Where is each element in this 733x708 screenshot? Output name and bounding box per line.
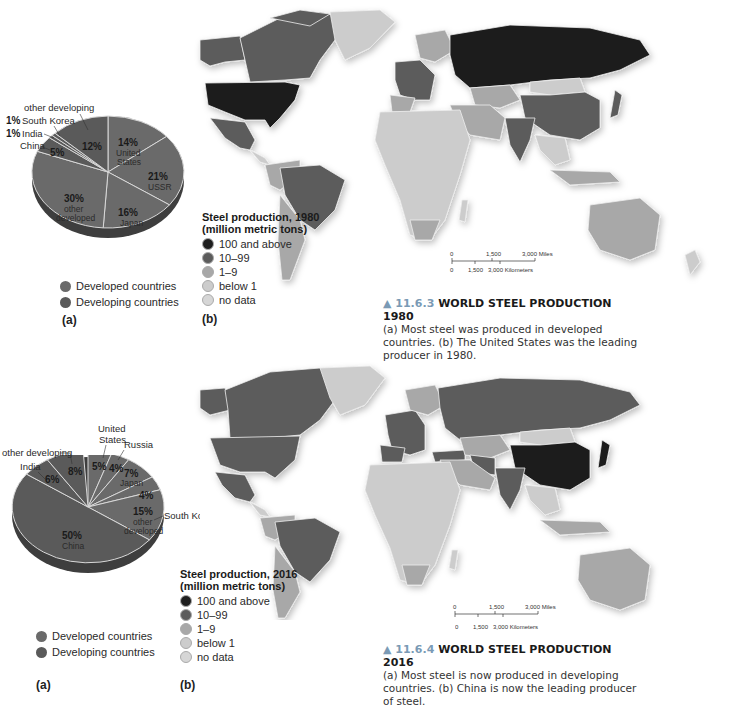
svg-text:other developing: other developing <box>2 447 72 458</box>
caption-2016: ▲ 11.6.4 WORLD STEEL PRODUCTION 2016 (a)… <box>383 643 643 708</box>
pie-chart-1980: 14% United States 21% USSR 16% Japan 30%… <box>0 100 200 240</box>
svg-text:3,000 Miles: 3,000 Miles <box>522 251 553 257</box>
swatch-100-above <box>180 595 192 607</box>
swatch-below-1 <box>180 637 192 649</box>
legend-developing-label: Developing countries <box>76 296 179 308</box>
svg-text:1%: 1% <box>6 128 21 139</box>
svg-text:0: 0 <box>455 624 459 630</box>
pie-2016-external-labels: United States Russia other developing In… <box>0 420 200 530</box>
svg-text:States: States <box>117 157 141 167</box>
svg-text:1,500: 1,500 <box>468 267 484 273</box>
swatch-no-data <box>180 651 192 663</box>
svg-text:3,000 Kilometers: 3,000 Kilometers <box>488 267 533 273</box>
panel-a-label-1980: (a) <box>62 313 77 327</box>
legend-developed-label: Developed countries <box>52 630 152 642</box>
svg-text:Japan: Japan <box>120 218 143 228</box>
map-legend-title-1980: Steel production, 1980 <box>202 211 319 223</box>
svg-text:1,500: 1,500 <box>489 604 505 610</box>
svg-text:States: States <box>99 434 126 445</box>
svg-text:USSR: USSR <box>148 182 172 192</box>
svg-text:3,000 Kilometers: 3,000 Kilometers <box>493 624 538 630</box>
developing-swatch <box>36 647 47 658</box>
svg-text:50%: 50% <box>62 530 82 541</box>
map-legend-2016: Steel production, 2016 (million metric t… <box>180 568 297 664</box>
panel-b-label-2016: (b) <box>180 678 195 692</box>
svg-text:South Korea: South Korea <box>22 115 76 126</box>
developed-swatch <box>36 631 47 642</box>
swatch-no-data <box>202 294 214 306</box>
svg-text:other developing: other developing <box>24 102 94 113</box>
map-legend-subtitle-1980: (million metric tons) <box>202 223 319 235</box>
swatch-1-9 <box>180 623 192 635</box>
svg-text:16%: 16% <box>118 207 138 218</box>
svg-text:0: 0 <box>450 267 454 273</box>
panel-a-label-2016: (a) <box>36 678 51 692</box>
pie-legend-2016: Developed countries Developing countries <box>36 628 155 660</box>
svg-text:China: China <box>20 140 46 151</box>
triangle-icon: ▲ <box>383 297 391 310</box>
svg-text:1%: 1% <box>6 115 21 126</box>
svg-text:14%: 14% <box>118 137 138 148</box>
svg-text:1,500: 1,500 <box>486 251 502 257</box>
svg-text:developed: developed <box>56 213 96 223</box>
svg-text:0: 0 <box>450 251 454 257</box>
svg-text:India: India <box>22 128 43 139</box>
figure-number: 11.6.3 <box>395 297 434 310</box>
swatch-10-99 <box>202 252 214 264</box>
svg-text:India: India <box>20 461 41 472</box>
caption-text: (a) Most steel was produced in developed… <box>383 323 643 362</box>
svg-text:United: United <box>98 423 125 434</box>
map-legend-subtitle-2016: (million metric tons) <box>180 580 297 592</box>
svg-text:South Korea: South Korea <box>164 510 200 521</box>
svg-text:5%: 5% <box>50 147 65 158</box>
legend-developing-label: Developing countries <box>52 646 155 658</box>
svg-text:China: China <box>62 541 84 551</box>
svg-text:12%: 12% <box>82 141 102 152</box>
svg-text:30%: 30% <box>64 193 84 204</box>
legend-developed-label: Developed countries <box>76 280 176 292</box>
triangle-icon: ▲ <box>383 643 391 656</box>
caption-text: (a) Most steel is now produced in develo… <box>383 669 643 708</box>
svg-text:3,000 Miles: 3,000 Miles <box>525 604 556 610</box>
pie-legend-1980: Developed countries Developing countries <box>60 278 179 310</box>
svg-text:21%: 21% <box>148 171 168 182</box>
swatch-1-9 <box>202 266 214 278</box>
panel-b-label-1980: (b) <box>202 312 217 326</box>
svg-text:Russia: Russia <box>124 439 154 450</box>
map-legend-title-2016: Steel production, 2016 <box>180 568 297 580</box>
map-legend-1980: Steel production, 1980 (million metric t… <box>202 211 319 307</box>
caption-1980: ▲ 11.6.3 WORLD STEEL PRODUCTION 1980 (a)… <box>383 297 643 362</box>
developing-swatch <box>60 297 71 308</box>
swatch-10-99 <box>180 609 192 621</box>
figure-number: 11.6.4 <box>395 643 434 656</box>
developed-swatch <box>60 281 71 292</box>
scale-km-2016: 0 1,500 3,000 Kilometers <box>455 622 545 632</box>
svg-text:1,500: 1,500 <box>473 624 489 630</box>
scale-bar-2016: 0 1,500 3,000 Miles <box>453 604 556 617</box>
swatch-100-above <box>202 238 214 250</box>
scale-bar-1980: 0 1,500 3,000 Miles 0 1,500 3,000 Kilome… <box>450 251 553 273</box>
swatch-below-1 <box>202 280 214 292</box>
svg-text:0: 0 <box>453 604 457 610</box>
